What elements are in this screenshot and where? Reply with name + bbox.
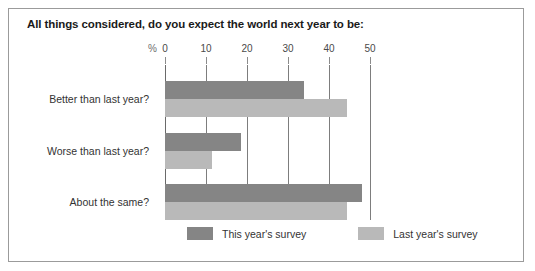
x-tick-mark-10 bbox=[206, 57, 207, 64]
x-tick-label-30: 30 bbox=[282, 43, 293, 54]
bar-this-year-1 bbox=[165, 133, 241, 151]
x-tick-mark-30 bbox=[288, 57, 289, 64]
chart-legend: This year's surveyLast year's survey bbox=[187, 227, 478, 240]
bar-last-year-0 bbox=[165, 99, 347, 117]
x-tick-label-10: 10 bbox=[200, 43, 211, 54]
legend-entry-1[interactable]: Last year's survey bbox=[358, 227, 477, 240]
x-tick-label-40: 40 bbox=[323, 43, 334, 54]
category-label-0: Better than last year? bbox=[49, 93, 149, 105]
legend-label-1: Last year's survey bbox=[393, 228, 477, 240]
x-tick-mark-20 bbox=[247, 57, 248, 64]
legend-label-0: This year's survey bbox=[222, 228, 306, 240]
chart-title: All things considered, do you expect the… bbox=[27, 18, 364, 30]
legend-swatch-1 bbox=[358, 227, 384, 240]
x-tick-label-0: 0 bbox=[162, 43, 168, 54]
x-tick-label-20: 20 bbox=[241, 43, 252, 54]
x-tick-mark-0 bbox=[165, 57, 166, 64]
legend-swatch-0 bbox=[187, 227, 213, 240]
axis-percent-symbol: % bbox=[148, 43, 157, 54]
legend-entry-0[interactable]: This year's survey bbox=[187, 227, 306, 240]
gridline-50 bbox=[370, 65, 371, 220]
category-label-2: About the same? bbox=[70, 196, 149, 208]
chart-frame: All things considered, do you expect the… bbox=[8, 8, 524, 262]
bar-this-year-0 bbox=[165, 81, 304, 99]
bar-last-year-2 bbox=[165, 202, 347, 220]
bar-last-year-1 bbox=[165, 151, 212, 169]
x-tick-label-50: 50 bbox=[364, 43, 375, 54]
bar-this-year-2 bbox=[165, 184, 362, 202]
x-tick-mark-40 bbox=[329, 57, 330, 64]
x-tick-mark-50 bbox=[370, 57, 371, 64]
category-label-1: Worse than last year? bbox=[47, 145, 149, 157]
